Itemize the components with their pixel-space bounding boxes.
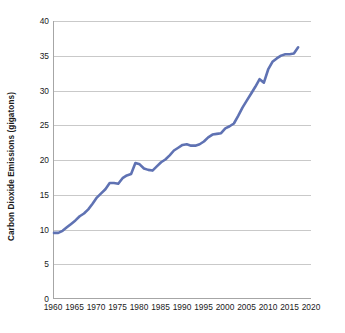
x-tick-label-2005: 2005	[237, 303, 256, 311]
y-tick-label-20: 20	[3, 156, 49, 164]
y-axis-tick-labels: 0510152025303540	[0, 21, 49, 299]
y-tick-label-10: 10	[3, 225, 49, 233]
x-tick-label-1970: 1970	[87, 303, 106, 311]
x-axis-tick-labels: 1960196519701975198019851990199520002005…	[53, 303, 311, 317]
x-tick-label-1990: 1990	[173, 303, 192, 311]
y-tick-label-5: 5	[3, 260, 49, 268]
x-tick-label-1985: 1985	[151, 303, 170, 311]
x-tick-label-2015: 2015	[280, 303, 299, 311]
y-tick-label-35: 35	[3, 52, 49, 60]
y-tick-label-0: 0	[3, 295, 49, 303]
x-tick-label-2000: 2000	[216, 303, 235, 311]
x-tick-label-1980: 1980	[130, 303, 149, 311]
x-tick-label-1965: 1965	[65, 303, 84, 311]
x-tick-label-2010: 2010	[259, 303, 278, 311]
y-tick-label-25: 25	[3, 121, 49, 129]
data-series-line	[54, 21, 311, 298]
series-polyline	[54, 47, 298, 233]
y-tick-label-30: 30	[3, 86, 49, 94]
x-tick-label-1960: 1960	[44, 303, 63, 311]
x-tick-label-1995: 1995	[194, 303, 213, 311]
co2-emissions-line-chart: Carbon Dioxide Emissions (gigatons) 0510…	[0, 0, 345, 333]
y-tick-label-40: 40	[3, 17, 49, 25]
y-tick-label-15: 15	[3, 191, 49, 199]
x-tick-label-2020: 2020	[302, 303, 321, 311]
plot-area	[53, 21, 311, 299]
x-tick-label-1975: 1975	[108, 303, 127, 311]
